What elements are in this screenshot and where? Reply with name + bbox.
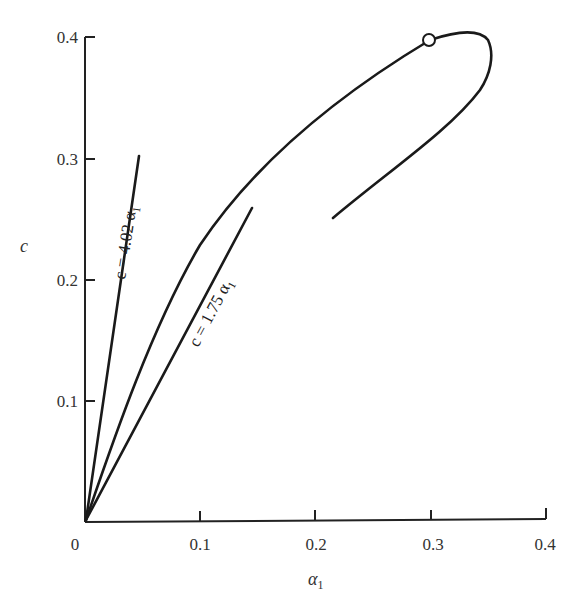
y-axis-label: c [20, 236, 28, 256]
y-tick-label: 0.4 [57, 28, 79, 47]
annotation-4-02: c = 4.02 α1 [110, 205, 142, 281]
y-tick-label: 0.2 [57, 271, 78, 290]
y-tick-label: 0.3 [57, 150, 78, 169]
x-axis-label: α1 [308, 569, 323, 592]
x-tick-label: 0.4 [534, 535, 556, 554]
main-curve [86, 33, 491, 521]
x-tick-label: 0.2 [305, 535, 326, 554]
x-tick-label: 0 [71, 535, 80, 554]
line-1-75 [86, 208, 252, 520]
x-tick-label: 0.3 [422, 535, 443, 554]
axes [85, 37, 546, 522]
y-tick-label: 0.1 [57, 392, 78, 411]
series [86, 33, 491, 521]
chart: 0.4 0.3 0.2 0.1 0 0.1 0.2 0.3 0.4 α1 c c… [0, 0, 583, 606]
x-tick-label: 0.1 [189, 535, 210, 554]
marker-open-circle [423, 34, 435, 46]
